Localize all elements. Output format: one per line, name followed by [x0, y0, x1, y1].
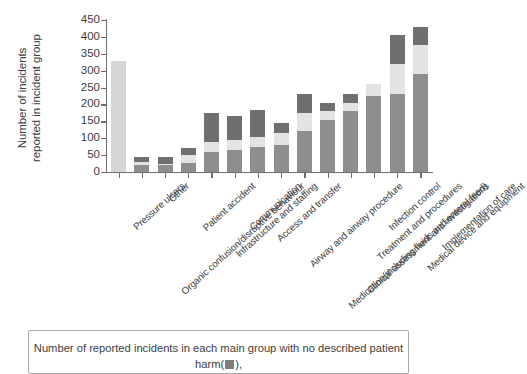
bar-segment	[274, 145, 289, 172]
bar-segment	[250, 110, 265, 137]
chart-container: Number of incidents reported in incident…	[0, 0, 439, 300]
bar-segment	[204, 142, 219, 152]
y-axis-tick-label: 300	[58, 65, 100, 77]
bar-segment	[343, 103, 358, 111]
legend: Number of reported incidents in each mai…	[28, 330, 409, 374]
legend-swatch-no-harm	[225, 360, 234, 369]
y-axis-tick-mark	[101, 104, 106, 105]
bar-segment	[366, 84, 381, 96]
bar-segment	[158, 165, 173, 172]
y-axis-title-line1: Number of incidents	[15, 3, 29, 193]
y-axis-tick-mark	[101, 121, 106, 122]
bar-segment	[343, 111, 358, 172]
bar-segment	[227, 116, 242, 140]
y-axis-title-line2: reported in incident group	[29, 3, 43, 193]
bar-segment	[320, 111, 335, 119]
y-axis-tick-labels: 450400350300250200150100500	[52, 0, 100, 200]
x-axis-tick-mark	[397, 173, 398, 178]
bar-segment	[274, 133, 289, 145]
x-axis-tick-mark	[328, 173, 329, 178]
bar	[390, 35, 405, 172]
bar-segment	[297, 131, 312, 172]
bar-segment	[204, 113, 219, 142]
y-axis-tick-mark	[101, 20, 106, 21]
x-axis-tick-mark	[142, 173, 143, 178]
bar	[204, 113, 219, 172]
y-axis-tick-label: 50	[58, 149, 100, 161]
y-axis-tick-label: 250	[58, 82, 100, 94]
bar-segment	[413, 27, 428, 46]
y-axis-tick-label: 150	[58, 115, 100, 127]
bar-segment	[111, 61, 126, 172]
bar	[297, 94, 312, 172]
y-axis-tick-mark	[101, 172, 106, 173]
x-axis-tick-mark	[351, 173, 352, 178]
bar-segment	[250, 147, 265, 172]
bar	[343, 94, 358, 172]
bar	[320, 103, 335, 172]
y-axis-title: Number of incidents reported in incident…	[15, 3, 55, 193]
bar	[274, 123, 289, 172]
bar-segment	[158, 157, 173, 164]
plot-area	[107, 20, 432, 172]
bar-segment	[390, 64, 405, 94]
bar-segment	[320, 120, 335, 172]
x-axis-tick-mark	[420, 173, 421, 178]
bar	[250, 110, 265, 172]
bar-segment	[366, 96, 381, 172]
bar-segment	[390, 94, 405, 172]
x-axis-line	[106, 172, 433, 173]
bar-segment	[343, 94, 358, 102]
x-axis-tick-mark	[304, 173, 305, 178]
y-axis-tick-label: 0	[58, 166, 100, 178]
bar-segment	[274, 123, 289, 133]
y-axis-tick-mark	[101, 88, 106, 89]
bar-segment	[181, 155, 196, 162]
y-axis-tick-label: 100	[58, 132, 100, 144]
x-axis-tick-mark	[188, 173, 189, 178]
y-axis-tick-label: 450	[58, 14, 100, 26]
y-axis-tick-mark	[101, 54, 106, 55]
y-axis-tick-mark	[101, 155, 106, 156]
bar-segment	[297, 94, 312, 113]
bar-segment	[250, 137, 265, 147]
bar-segment	[390, 35, 405, 64]
bar	[366, 84, 381, 172]
bar-segment	[227, 150, 242, 172]
bar-segment	[181, 148, 196, 155]
x-axis-tick-mark	[119, 173, 120, 178]
x-axis-tick-mark	[281, 173, 282, 178]
y-axis-tick-label: 350	[58, 48, 100, 60]
bar-segment	[181, 163, 196, 172]
bar	[227, 116, 242, 172]
y-axis-tick-mark	[101, 138, 106, 139]
bar-segment	[297, 113, 312, 132]
bar-segment	[413, 74, 428, 172]
legend-line1-text-a: Number of reported incidents in each mai…	[34, 342, 403, 370]
x-axis-tick-mark	[374, 173, 375, 178]
bar-segment	[204, 152, 219, 172]
x-axis-tick-mark	[258, 173, 259, 178]
bar-segment	[413, 45, 428, 74]
bar	[413, 27, 428, 172]
bar	[181, 148, 196, 172]
x-axis-tick-label: Other	[167, 181, 191, 204]
bar	[134, 157, 149, 172]
x-axis-tick-mark	[165, 173, 166, 178]
x-axis-tick-mark	[211, 173, 212, 178]
y-axis-tick-label: 200	[58, 98, 100, 110]
bar	[111, 61, 126, 172]
x-axis-tick-mark	[235, 173, 236, 178]
bar-segment	[227, 140, 242, 150]
y-axis-tick-mark	[101, 71, 106, 72]
y-axis-tick-label: 400	[58, 31, 100, 43]
bar-segment	[134, 165, 149, 172]
bar	[158, 157, 173, 172]
bar-segment	[320, 103, 335, 111]
legend-line1-text-b: ),	[235, 358, 242, 370]
y-axis-tick-mark	[101, 37, 106, 38]
